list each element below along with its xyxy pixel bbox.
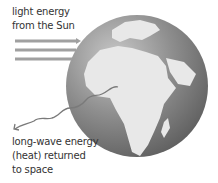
outgoing-label-line2: (heat) returned	[12, 149, 98, 163]
outgoing-label: long-wave energy (heat) returned to spac…	[12, 135, 98, 177]
outgoing-label-line1: long-wave energy	[12, 135, 98, 149]
incoming-light-arrows	[15, 38, 81, 59]
incoming-label-line2: from the Sun	[12, 19, 75, 33]
incoming-label-line1: light energy	[12, 5, 75, 19]
incoming-label: light energy from the Sun	[12, 5, 75, 33]
outgoing-label-line3: to space	[12, 163, 98, 177]
